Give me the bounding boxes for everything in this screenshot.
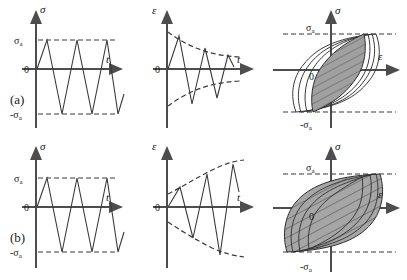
y-axis-label: σ [40, 140, 46, 152]
y-axis-label: σ [40, 3, 46, 15]
x-axis-label: ε [378, 50, 383, 62]
figure-svg: σ t σa 0 -σa ε t 0 [0, 0, 407, 280]
x-axis-label: ε [378, 188, 383, 200]
row-label-a: (a) [10, 92, 24, 107]
y-axis-label: σ [335, 140, 341, 152]
tick-zero: 0 [24, 64, 29, 75]
row-label-b: (b) [10, 230, 25, 245]
y-axis-label: σ [335, 4, 341, 16]
origin-label: 0 [309, 211, 314, 222]
y-axis-label: ε [152, 140, 157, 152]
tick-zero: 0 [155, 64, 160, 75]
tick-zero: 0 [155, 202, 160, 213]
origin-label: 0 [309, 71, 314, 82]
y-axis-label: ε [152, 4, 157, 16]
figure-root: σ t σa 0 -σa ε t 0 [0, 0, 407, 280]
tick-zero: 0 [24, 202, 29, 213]
